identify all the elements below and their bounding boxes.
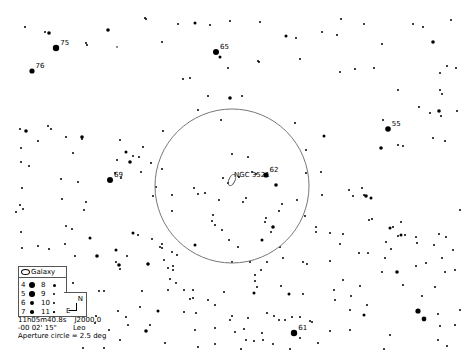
star: [304, 215, 306, 217]
star: [171, 194, 173, 196]
star: [354, 68, 356, 70]
aperture-circle: [155, 109, 309, 263]
star-label: 65: [220, 43, 229, 51]
star: [85, 201, 87, 203]
star: [214, 304, 216, 306]
star: [265, 217, 267, 219]
star: [368, 219, 370, 221]
star: [256, 286, 258, 288]
star: [132, 155, 134, 157]
star: [383, 348, 385, 350]
star: [115, 261, 117, 263]
star: [161, 247, 163, 249]
star: [445, 236, 447, 238]
star: [282, 257, 284, 259]
star: [302, 293, 304, 295]
star: [161, 41, 163, 43]
star: [455, 67, 457, 69]
star: [144, 329, 148, 333]
star: [400, 221, 402, 223]
star: [149, 324, 151, 326]
star: [452, 249, 454, 251]
labeled-star: [291, 330, 297, 336]
star: [294, 122, 296, 124]
star: [309, 320, 311, 322]
star: [441, 257, 443, 259]
star: [342, 233, 344, 235]
star: [437, 313, 439, 315]
compass: N E: [64, 292, 87, 317]
star: [254, 274, 256, 276]
aperture-info: Aperture circle = 2.5 deg: [18, 332, 106, 340]
legend-magnitude-label: 4: [21, 281, 25, 289]
star: [192, 289, 194, 291]
star: [192, 297, 194, 299]
star: [24, 129, 28, 133]
star: [299, 316, 301, 318]
star: [61, 198, 63, 200]
legend-magnitude-dot: [30, 301, 34, 305]
star: [363, 194, 365, 196]
star-label: 69: [114, 171, 123, 179]
target-label[interactable]: NGC 3521: [234, 171, 270, 179]
labeled-star: [385, 126, 391, 132]
star: [116, 159, 118, 161]
star: [161, 243, 163, 245]
star: [20, 231, 22, 233]
star: [48, 248, 50, 250]
star: [432, 137, 434, 139]
star: [321, 31, 323, 33]
star: [197, 193, 199, 195]
star: [21, 247, 23, 249]
star: [194, 329, 196, 331]
star: [288, 293, 291, 296]
labeled-star: [53, 45, 59, 51]
star: [171, 251, 173, 253]
dec-value: -00 02' 15": [18, 324, 57, 332]
star: [47, 31, 51, 35]
star: [381, 43, 383, 45]
star: [397, 235, 399, 237]
star: [389, 334, 391, 336]
star: [245, 197, 247, 199]
star: [446, 65, 448, 67]
legend-header: Galaxy: [19, 267, 66, 278]
star: [82, 347, 84, 349]
star: [352, 195, 354, 197]
star: [397, 89, 399, 91]
star: [72, 282, 74, 284]
star: [15, 211, 17, 213]
star: [459, 209, 461, 211]
star: [207, 95, 209, 97]
star: [214, 343, 216, 345]
star: [400, 234, 403, 237]
star: [95, 254, 99, 258]
star: [425, 262, 427, 264]
star: [24, 26, 26, 28]
star: [50, 128, 52, 130]
star: [321, 194, 323, 196]
star: [339, 243, 341, 245]
star: [228, 239, 230, 241]
star: [444, 140, 446, 142]
star: [177, 23, 179, 25]
star: [125, 316, 127, 318]
star: [415, 265, 417, 267]
star-label: 55: [392, 120, 401, 128]
star: [228, 96, 232, 100]
star: [150, 162, 152, 164]
star: [77, 181, 79, 183]
star: [20, 161, 22, 163]
star: [234, 331, 236, 333]
star: [221, 229, 223, 231]
star: [117, 310, 119, 312]
star: [85, 42, 87, 44]
labeled-star: [213, 49, 219, 55]
star: [438, 233, 440, 235]
star: [71, 228, 73, 230]
star: [291, 316, 293, 318]
legend: Galaxy 4567891011: [18, 266, 67, 317]
star: [86, 44, 88, 46]
star: [389, 227, 392, 230]
star: [231, 315, 233, 317]
